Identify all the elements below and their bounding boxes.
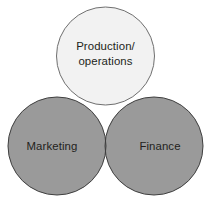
label-production-operations-line1: Production/ <box>76 40 135 52</box>
venn-diagram: Production/ operations Marketing Finance <box>0 0 211 218</box>
venn-diagram-canvas: Production/ operations Marketing Finance <box>0 0 211 218</box>
label-production-operations-line2: operations <box>78 55 132 67</box>
label-marketing: Marketing <box>27 140 78 152</box>
label-finance: Finance <box>139 140 180 152</box>
